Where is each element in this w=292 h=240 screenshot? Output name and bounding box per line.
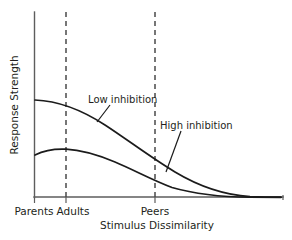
leader-line-low-inhibition <box>97 105 110 122</box>
leader-line-high-inhibition <box>166 131 181 172</box>
x-axis-title: Stimulus Dissimilarity <box>100 219 214 231</box>
x-tick-label-parents: Parents <box>14 205 53 217</box>
series-label-low-inhibition: Low inhibition <box>88 94 157 105</box>
x-tick-label-peers: Peers <box>141 205 170 217</box>
response-strength-chart: Response Strength Parents Adults Peers S… <box>0 0 292 240</box>
figure-container: Response Strength Parents Adults Peers S… <box>0 0 292 240</box>
series-label-high-inhibition: High inhibition <box>160 120 233 131</box>
x-tick-label-adults: Adults <box>57 205 90 217</box>
curve-high-inhibition <box>35 149 281 197</box>
y-axis-title: Response Strength <box>8 55 20 154</box>
